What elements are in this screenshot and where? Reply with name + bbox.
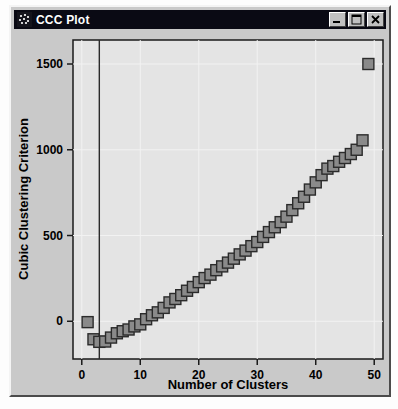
chart-canvas: 01020304050 050010001500 Number of Clust… (14, 31, 386, 392)
y-axis-title: Cubic Clustering Criterion (16, 118, 31, 280)
data-point-marker (363, 59, 374, 70)
minimize-icon[interactable] (329, 12, 346, 27)
y-tick-label: 1500 (36, 57, 63, 71)
plot-panel (73, 40, 383, 359)
x-tick-label: 10 (134, 368, 148, 382)
x-axis-title: Number of Clusters (168, 377, 289, 392)
y-tick-label: 0 (56, 314, 63, 328)
data-point-marker (357, 135, 368, 146)
y-tick-label: 1000 (36, 143, 63, 157)
ccc-plot-window: CCC Plot (9, 5, 391, 397)
x-tick-label: 0 (78, 368, 85, 382)
window-client-area: 01020304050 050010001500 Number of Clust… (14, 31, 386, 392)
scatter-dots-icon (17, 12, 32, 27)
window-titlebar[interactable]: CCC Plot (14, 10, 386, 29)
ccc-scatter-chart: 01020304050 050010001500 Number of Clust… (14, 31, 386, 392)
x-tick-label: 40 (309, 368, 323, 382)
close-icon[interactable] (367, 12, 384, 27)
x-tick-label: 50 (368, 368, 382, 382)
maximize-icon[interactable] (348, 12, 365, 27)
y-tick-label: 500 (43, 229, 63, 243)
desktop-background: CCC Plot (0, 0, 398, 409)
window-title: CCC Plot (36, 13, 327, 27)
data-point-marker (82, 317, 93, 328)
